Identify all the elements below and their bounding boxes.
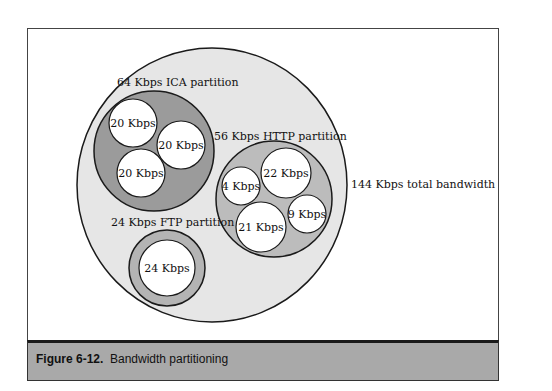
ica-flow-label-3: 20 Kbps (118, 167, 164, 180)
ica-flow-label-1: 20 Kbps (110, 117, 156, 130)
http-partition-label: 56 Kbps HTTP partition (214, 130, 347, 143)
total-bandwidth-label: 144 Kbps total bandwidth (351, 178, 495, 191)
http-flow-label-9: 9 Kbps (288, 208, 327, 221)
bandwidth-diagram: 20 Kbps 20 Kbps 20 Kbps 64 Kbps ICA part… (0, 0, 552, 391)
ftp-flow-label: 24 Kbps (144, 262, 190, 275)
http-flow-label-22: 22 Kbps (263, 167, 309, 180)
ftp-partition-label: 24 Kbps FTP partition (111, 216, 234, 229)
http-flow-label-21: 21 Kbps (238, 221, 284, 234)
figure-caption: Bandwidth partitioning (110, 352, 228, 366)
ica-partition-label: 64 Kbps ICA partition (117, 76, 239, 89)
caption-band: Figure 6-12. Bandwidth partitioning (27, 340, 499, 381)
http-flow-label-4: 4 Kbps (222, 180, 261, 193)
figure-number: Figure 6-12. (36, 352, 103, 366)
ica-flow-label-2: 20 Kbps (158, 139, 204, 152)
